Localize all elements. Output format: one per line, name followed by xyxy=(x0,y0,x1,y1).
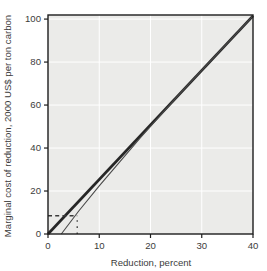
y-tick-label: 0 xyxy=(36,228,41,239)
figure: 010203040020406080100 Marginal cost of r… xyxy=(0,0,267,271)
y-tick-label: 60 xyxy=(30,99,41,110)
x-tick-label: 0 xyxy=(45,240,50,251)
x-tick-label: 30 xyxy=(196,240,207,251)
plot-layer: 010203040020406080100 xyxy=(25,13,258,251)
x-tick-label: 20 xyxy=(145,240,156,251)
y-tick-label: 80 xyxy=(30,56,41,67)
x-tick-label: 40 xyxy=(248,240,259,251)
y-tick-label: 40 xyxy=(30,142,41,153)
y-axis-label: Marginal cost of reduction, 2000 US$ per… xyxy=(2,15,13,237)
y-tick-label: 100 xyxy=(25,13,41,24)
x-tick-label: 10 xyxy=(94,240,105,251)
x-axis-label: Reduction, percent xyxy=(111,257,192,268)
chart-canvas: 010203040020406080100 Marginal cost of r… xyxy=(0,0,267,271)
y-tick-label: 20 xyxy=(30,185,41,196)
